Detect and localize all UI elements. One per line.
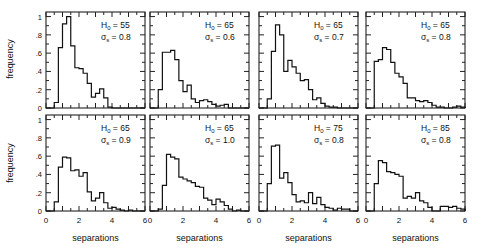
y-tick-label: .2: [36, 189, 42, 198]
histogram-steps: [366, 161, 465, 211]
x-tick-label: 0: [44, 216, 49, 225]
y-tick-label: .8: [36, 31, 42, 40]
h0-annotation: H0 = 65: [101, 123, 130, 134]
histogram-steps: [366, 48, 465, 108]
sigma-annotation: σs = 0.8: [421, 135, 451, 146]
x-tick-label: 4: [430, 216, 435, 225]
y-tick-label: .6: [36, 49, 42, 58]
histogram-steps: [46, 17, 145, 108]
y-tick-label: .6: [36, 152, 42, 161]
y-axis-label-top-row: frequency: [5, 39, 15, 79]
x-tick-label: 4: [110, 216, 115, 225]
y-tick-label: 0: [38, 104, 42, 113]
histogram-steps: [150, 154, 249, 211]
x-tick-label: 6: [356, 216, 361, 225]
x-tick-label: 0: [148, 216, 153, 225]
x-tick-label: 2: [397, 216, 402, 225]
x-axis-label: separations: [72, 233, 119, 243]
h0-annotation: H0 = 65: [421, 20, 450, 31]
sigma-annotation: σs = 0.8: [101, 32, 131, 43]
y-tick-label: 0: [38, 207, 42, 216]
y-tick-label: .2: [36, 86, 42, 95]
sigma-annotation: σs = 0.7: [314, 32, 344, 43]
h0-annotation: H0 = 75: [314, 123, 343, 134]
h0-annotation: H0 = 55: [101, 20, 130, 31]
x-tick-label: 4: [323, 216, 328, 225]
x-tick-label: 2: [77, 216, 82, 225]
histogram-panel: H0 = 65σs = 0.8: [366, 12, 465, 108]
histogram-steps: [150, 50, 249, 108]
h0-annotation: H0 = 65: [314, 20, 343, 31]
y-axis-label-bottom-row: frequency: [5, 143, 15, 183]
y-tick-label: 1: [38, 116, 42, 125]
h0-annotation: H0 = 65: [205, 123, 234, 134]
histogram-panel: H0 = 55σs = 0.80.2.4.6.81: [36, 12, 145, 113]
h0-annotation: H0 = 65: [205, 20, 234, 31]
histogram-panel: H0 = 65σs = 0.6: [150, 12, 249, 108]
histogram-panel: H0 = 85σs = 0.80246separations: [364, 115, 468, 243]
y-tick-label: 1: [38, 13, 42, 22]
panel-frame: [46, 115, 145, 211]
x-axis-label: separations: [176, 233, 223, 243]
x-tick-label: 4: [214, 216, 219, 225]
sigma-annotation: σs = 0.9: [101, 135, 131, 146]
panel-frame: [259, 12, 358, 108]
panel-frame: [150, 12, 249, 108]
histogram-panel: H0 = 75σs = 0.80246separations: [257, 115, 361, 243]
x-axis-label: separations: [285, 233, 332, 243]
histogram-panel: H0 = 65σs = 1.00246separations: [148, 115, 252, 243]
y-tick-label: .4: [36, 170, 42, 179]
sigma-annotation: σs = 0.8: [421, 32, 451, 43]
sigma-annotation: σs = 0.8: [314, 135, 344, 146]
y-tick-label: .4: [36, 67, 42, 76]
sigma-annotation: σs = 0.6: [205, 32, 235, 43]
sigma-annotation: σs = 1.0: [205, 135, 235, 146]
x-tick-label: 2: [290, 216, 295, 225]
histogram-steps: [259, 145, 358, 211]
y-tick-label: .8: [36, 134, 42, 143]
histogram-panel: H0 = 65σs = 0.90.2.4.6.810246separations: [36, 115, 148, 243]
x-tick-label: 6: [247, 216, 252, 225]
histogram-panel: H0 = 65σs = 0.7: [259, 12, 358, 108]
x-tick-label: 0: [257, 216, 262, 225]
histogram-steps: [46, 157, 145, 211]
x-tick-label: 6: [463, 216, 468, 225]
x-tick-label: 2: [181, 216, 186, 225]
x-axis-label: separations: [392, 233, 439, 243]
histogram-figure: frequency frequency H0 = 55σs = 0.80.2.4…: [0, 0, 481, 251]
x-tick-label: 0: [364, 216, 369, 225]
h0-annotation: H0 = 85: [421, 123, 450, 134]
panel-frame: [150, 115, 249, 211]
